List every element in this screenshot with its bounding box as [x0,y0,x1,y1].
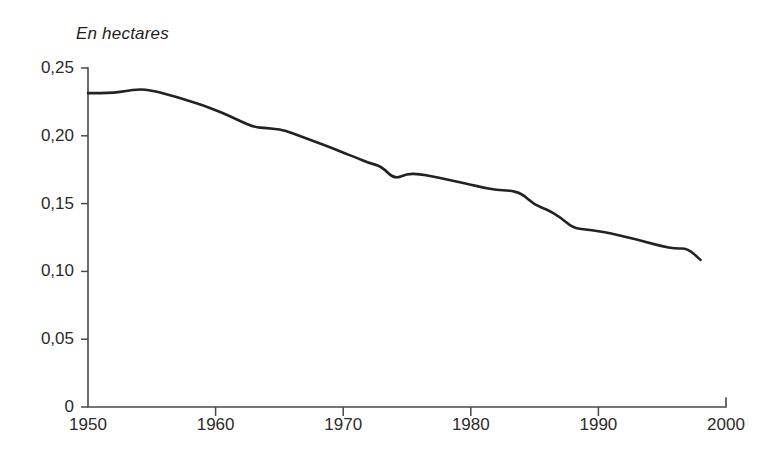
chart-tick-marks [81,68,598,416]
data-series-line [88,89,700,259]
chart-plot-area [0,0,781,476]
chart-container: En hectares 00,050,100,150,200,25 195019… [0,0,781,476]
